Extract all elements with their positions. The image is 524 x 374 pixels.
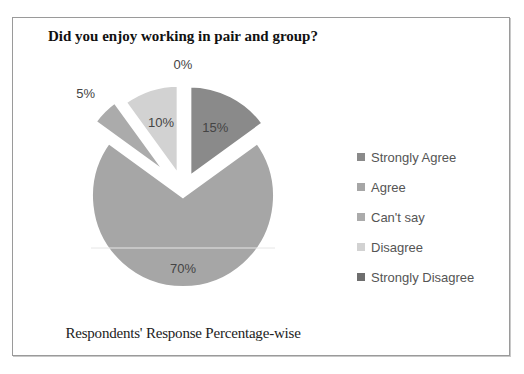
legend-label: Strongly Disagree bbox=[371, 270, 474, 285]
legend-label: Strongly Agree bbox=[371, 150, 456, 165]
data-label: 70% bbox=[170, 261, 196, 276]
chart-frame: Did you enjoy working in pair and group?… bbox=[12, 17, 510, 356]
legend-swatch bbox=[357, 213, 365, 221]
legend-label: Agree bbox=[371, 180, 406, 195]
legend: Strongly Agree Agree Can't say Disagree … bbox=[357, 142, 507, 292]
data-label: 15% bbox=[202, 120, 228, 135]
legend-swatch bbox=[357, 273, 365, 281]
legend-swatch bbox=[357, 153, 365, 161]
legend-label: Can't say bbox=[371, 210, 425, 225]
x-axis-label: Respondents' Response Percentage-wise bbox=[13, 325, 353, 342]
legend-item-disagree: Disagree bbox=[357, 232, 507, 262]
legend-item-strongly-agree: Strongly Agree bbox=[357, 142, 507, 172]
legend-label: Disagree bbox=[371, 240, 423, 255]
data-label: 5% bbox=[76, 86, 95, 101]
legend-item-strongly-disagree: Strongly Disagree bbox=[357, 262, 507, 292]
pie-chart: 15%70%5%10%0% bbox=[13, 18, 353, 355]
legend-swatch bbox=[357, 183, 365, 191]
legend-item-agree: Agree bbox=[357, 172, 507, 202]
data-label: 0% bbox=[174, 57, 193, 72]
legend-swatch bbox=[357, 243, 365, 251]
data-label: 10% bbox=[148, 115, 174, 130]
legend-item-cant-say: Can't say bbox=[357, 202, 507, 232]
